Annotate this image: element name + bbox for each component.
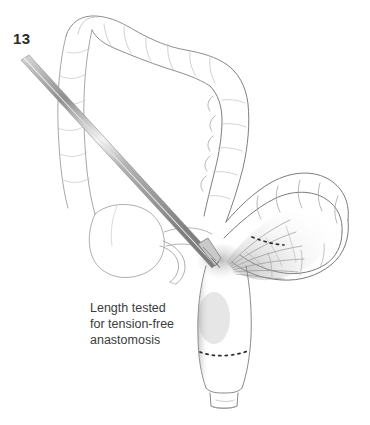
figure-container: 13 Length tested for tension-free anasto… — [0, 0, 370, 425]
caption-line-1: Length tested — [90, 300, 174, 316]
colon-illustration — [0, 0, 370, 425]
transverse-colon — [66, 16, 226, 86]
surgical-clamp[interactable] — [21, 55, 221, 268]
figure-caption: Length tested for tension-free anastomos… — [90, 300, 174, 348]
rectal-stump-highlight-shadow — [198, 292, 230, 344]
caption-line-2: for tension-free — [90, 316, 174, 332]
figure-number: 13 — [13, 31, 30, 46]
caption-line-3: anastomosis — [90, 332, 174, 348]
appendix — [160, 241, 185, 284]
cecum — [89, 204, 164, 277]
descending-colon — [201, 64, 249, 222]
